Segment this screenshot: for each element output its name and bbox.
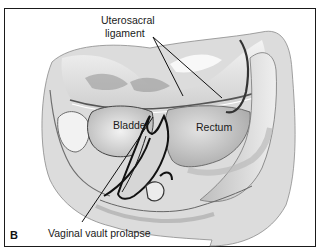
- label-rectum: Rectum: [196, 121, 232, 133]
- pelvis-sagittal-illustration: [0, 0, 322, 252]
- label-bladder: Bladder: [113, 119, 149, 131]
- label-uterosacral-line2: ligament: [105, 27, 145, 39]
- panel-letter: B: [10, 229, 18, 241]
- anatomical-figure: Uterosacral ligament Bladder Rectum Vagi…: [0, 0, 322, 252]
- label-uterosacral-line1: Uterosacral: [101, 14, 155, 26]
- label-vaginal-vault-prolapse: Vaginal vault prolapse: [48, 227, 151, 239]
